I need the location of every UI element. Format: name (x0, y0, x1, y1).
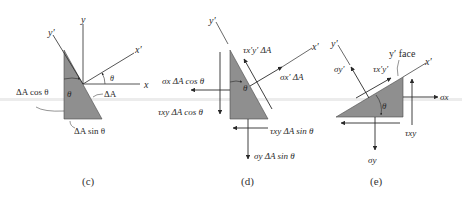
label-y-prime: y′ (208, 15, 216, 26)
label-x-prime: x′ (424, 56, 432, 67)
label-theta: θ (382, 101, 387, 111)
label-dA-cos: ΔA cos θ (16, 87, 49, 97)
label-y-prime: y′ (330, 38, 338, 49)
label-y: y (80, 14, 86, 25)
stress-transformation-figure: y y′ x′ x θ θ ΔA ΔA cos θ ΔA sin θ (c) y… (0, 0, 462, 199)
label-tau-xy-vertical: τxy ΔA cos θ (158, 107, 204, 117)
element-wedge (336, 77, 403, 117)
label-y-prime-face: y′ face (389, 48, 416, 59)
label-sigma-y: σy (368, 155, 376, 165)
leader-dA (93, 94, 103, 97)
label-sigma-y-prime: σy′ (334, 64, 345, 74)
caption-d: (d) (241, 175, 254, 188)
panel-e: y′ x′ y′ face σy′ τx′y′ θ σx τxy σy (e) (330, 38, 448, 188)
caption-c: (c) (82, 175, 95, 188)
label-x: x (143, 79, 149, 90)
label-x-prime: x′ (134, 44, 142, 55)
label-theta-inside: θ (67, 89, 72, 99)
x-prime-axis (83, 53, 134, 84)
label-sigma-x: σx (440, 92, 448, 102)
leader-dAcos (36, 107, 64, 111)
label-tau-x-prime-y-prime: τx′y′ (373, 64, 389, 74)
label-theta-inside: θ (243, 83, 248, 93)
label-x-prime: x′ (311, 41, 319, 52)
x-prime-axis (403, 63, 426, 77)
label-dA: ΔA (104, 89, 117, 99)
leader-y-prime-face (397, 60, 399, 76)
sigma-x-prime-arrow (250, 67, 282, 86)
label-sigma-x-prime: σx′ ΔA (280, 72, 304, 82)
label-tau-xy-bottom: τxy ΔA sin θ (270, 126, 314, 136)
y-prime-axis (338, 45, 350, 65)
label-sigma-x: σx ΔA cos θ (162, 76, 205, 86)
y-prime-axis (216, 22, 228, 44)
label-tau-x-prime-y-prime: τx′y′ ΔA (243, 45, 272, 55)
panel-c: y y′ x′ x θ θ ΔA ΔA cos θ ΔA sin θ (c) (16, 14, 149, 188)
theta-arc (102, 73, 105, 84)
panel-d: y′ x′ θ τx′y′ ΔA σx′ ΔA σx ΔA cos θ τxy … (158, 15, 319, 188)
label-sigma-y: σy ΔA sin θ (254, 151, 295, 161)
caption-e: (e) (370, 175, 383, 188)
label-tau-xy: τxy (405, 128, 416, 138)
label-dA-sin: ΔA sin θ (74, 126, 105, 136)
element-wedge (230, 50, 268, 119)
sigma-y-prime-arrow (351, 67, 369, 98)
x-prime-axis (282, 48, 312, 67)
label-theta: θ (110, 74, 114, 83)
label-y-prime: y′ (47, 27, 55, 38)
